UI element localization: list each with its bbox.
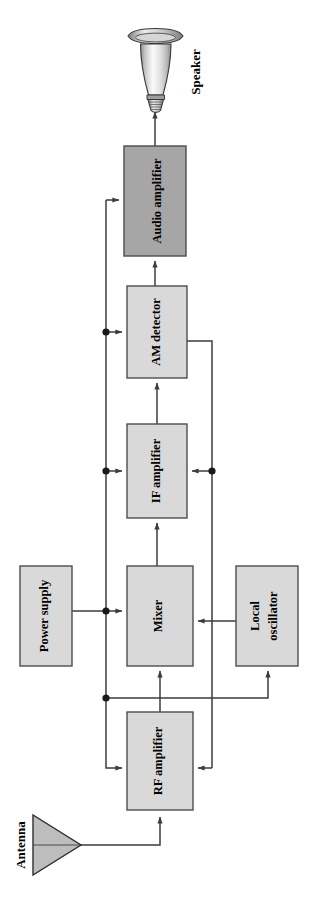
block-power-supply[interactable]: Power supply	[20, 566, 72, 666]
block-am-detector[interactable]: AM detector	[127, 286, 187, 378]
block-label-local-oscillator-line1: Local	[248, 601, 262, 631]
block-label-power-supply: Power supply	[37, 579, 51, 652]
block-diagram: Audio amplifier AM detector IF amplifier…	[0, 0, 324, 922]
block-audio-amplifier[interactable]: Audio amplifier	[124, 146, 186, 256]
antenna-label: Antenna	[13, 821, 28, 869]
junction-dot-agc-if	[208, 467, 215, 474]
block-label-rf-amplifier: RF amplifier	[151, 726, 165, 795]
junction-dot-mixer-power	[102, 607, 109, 614]
block-rf-amplifier[interactable]: RF amplifier	[127, 712, 193, 810]
speaker-label: Speaker	[188, 49, 203, 95]
block-local-oscillator[interactable]: Local oscillator	[236, 566, 298, 666]
block-label-local-oscillator-line2: oscillator	[266, 591, 280, 641]
antenna-icon[interactable]	[33, 815, 81, 875]
junction-dot-low-power	[102, 694, 109, 701]
block-mixer[interactable]: Mixer	[127, 566, 193, 666]
junction-dot-if-power	[102, 467, 109, 474]
block-label-mixer: Mixer	[151, 599, 165, 632]
block-label-if-amplifier: IF amplifier	[149, 438, 163, 503]
diagram-canvas: Audio amplifier AM detector IF amplifier…	[0, 0, 324, 922]
wire-agc-feedback-trunk	[187, 341, 212, 768]
block-if-amplifier[interactable]: IF amplifier	[127, 424, 187, 518]
block-label-am-detector: AM detector	[149, 298, 163, 366]
wire-antenna-to-rf-amplifier	[81, 817, 160, 845]
speaker-icon[interactable]	[128, 29, 183, 113]
block-label-audio-amplifier: Audio amplifier	[150, 158, 164, 244]
junction-dot-audio-power	[102, 328, 109, 335]
wire-power-to-rf-amplifier	[106, 698, 122, 768]
wire-power-to-local-oscillator	[106, 671, 268, 698]
